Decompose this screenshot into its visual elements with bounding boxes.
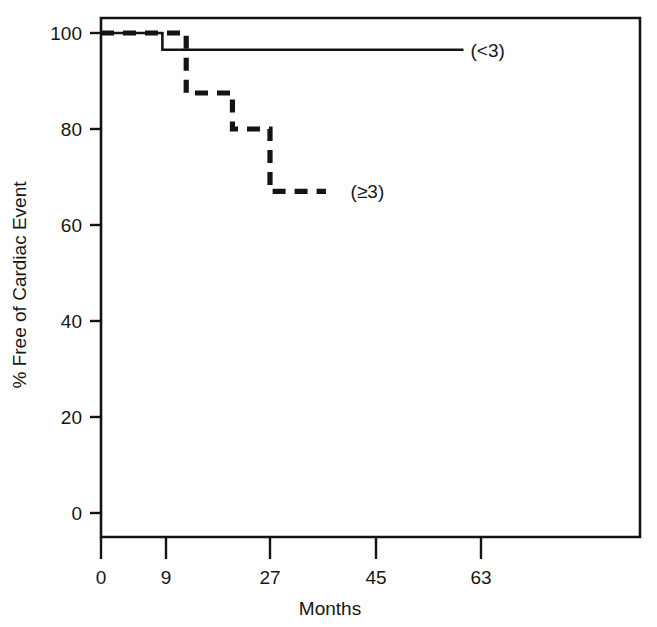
chart-background xyxy=(0,0,657,627)
x-tick-label-9: 9 xyxy=(161,567,172,588)
x-tick-label-63: 63 xyxy=(470,567,491,588)
x-axis-title: Months xyxy=(299,598,361,619)
y-tick-label-40: 40 xyxy=(61,311,82,332)
series-label-high-group: (≥3) xyxy=(351,181,385,202)
y-tick-label-80: 80 xyxy=(61,119,82,140)
survival-curve-chart: 100 80 60 40 20 0 0 9 27 45 63 Months % … xyxy=(0,0,657,627)
y-axis-title: % Free of Cardiac Event xyxy=(9,181,30,389)
y-tick-label-0: 0 xyxy=(71,503,82,524)
x-tick-label-45: 45 xyxy=(365,567,386,588)
y-tick-label-60: 60 xyxy=(61,215,82,236)
kaplan-meier-figure: 100 80 60 40 20 0 0 9 27 45 63 Months % … xyxy=(0,0,657,627)
x-tick-label-27: 27 xyxy=(259,567,280,588)
series-label-low-group: (<3) xyxy=(471,40,505,61)
x-tick-label-0: 0 xyxy=(96,567,107,588)
y-tick-label-20: 20 xyxy=(61,407,82,428)
y-tick-label-100: 100 xyxy=(50,23,82,44)
